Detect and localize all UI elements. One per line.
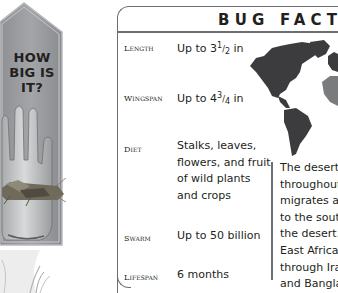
- fact-value-wingspan: Up to 43/4 in: [177, 88, 257, 111]
- value-text: Up to 4: [177, 92, 217, 105]
- fact-label-diet: Diet: [124, 145, 142, 154]
- grass-illustration: [0, 250, 70, 293]
- sign-title-line: BIG IS: [0, 65, 64, 80]
- value-unit: in: [230, 42, 244, 55]
- value-unit: in: [230, 92, 244, 105]
- value-text: Up to 3: [177, 42, 217, 55]
- description-line: migrates ac: [280, 193, 338, 210]
- sign-title: HOW BIG IS IT?: [0, 50, 64, 95]
- description-line: throughout: [280, 177, 338, 194]
- how-big-is-it-panel: HOW BIG IS IT?: [0, 0, 66, 250]
- fact-value-lifespan: 6 months: [177, 267, 257, 284]
- fact-label-length: Length: [124, 44, 154, 53]
- fact-label-wingspan: Wingspan: [124, 94, 163, 103]
- description-line: the desert. I: [280, 226, 338, 243]
- africa-range-shape: [322, 76, 338, 106]
- north-america-shape: [250, 42, 322, 98]
- fact-value-diet: Stalks, leaves, flowers, and fruit of wi…: [177, 138, 257, 204]
- description-line: to the south: [280, 210, 338, 227]
- fact-value-length: Up to 31/2 in: [177, 38, 257, 61]
- description-divider: [271, 162, 273, 280]
- south-america-shape: [284, 108, 312, 156]
- fact-label-lifespan: Lifespan: [124, 273, 158, 282]
- fact-value-swarm: Up to 50 billion: [177, 228, 257, 245]
- title-divider: [118, 31, 338, 33]
- range-description: The desert l throughout migrates ac to t…: [280, 160, 338, 293]
- value-line: flowers, and fruit: [177, 155, 257, 172]
- central-america-shape: [278, 96, 290, 108]
- description-line: East Africa a: [280, 243, 338, 260]
- value-line: of wild plants: [177, 171, 257, 188]
- value-line: Stalks, leaves,: [177, 138, 257, 155]
- sign-title-line: IT?: [0, 80, 64, 95]
- fact-label-swarm: Swarm: [124, 234, 151, 243]
- world-map-range: [250, 38, 338, 158]
- description-line: and Banglac: [280, 276, 338, 293]
- card-title: BUG FACTS: [218, 11, 338, 29]
- value-line: and crops: [177, 188, 257, 205]
- europe-shape: [328, 52, 338, 72]
- sign-title-line: HOW: [0, 50, 64, 65]
- description-line: through Irar: [280, 260, 338, 277]
- hand-with-locust-illustration: [0, 0, 66, 250]
- description-line: The desert l: [280, 160, 338, 177]
